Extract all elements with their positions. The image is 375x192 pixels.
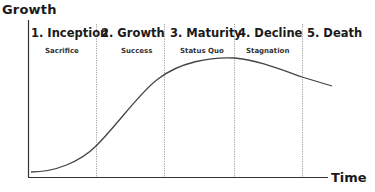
stage-2-title: 2. Growth <box>101 26 165 40</box>
x-axis-label: Time <box>331 170 367 185</box>
stage-3-title: 3. Maturity <box>170 26 242 40</box>
lifecycle-curve <box>31 58 332 172</box>
stage-1-subtitle: Sacrifice <box>45 47 79 55</box>
y-axis-label: Growth <box>2 2 57 17</box>
stage-4-title: 4. Decline <box>238 26 302 40</box>
stage-2-subtitle: Success <box>121 47 152 55</box>
stage-1-title: 1. Inception <box>31 26 108 40</box>
stage-5-title: 5. Death <box>307 26 362 40</box>
stage-4-subtitle: Stagnation <box>246 47 289 55</box>
stage-3-subtitle: Status Quo <box>180 47 224 55</box>
